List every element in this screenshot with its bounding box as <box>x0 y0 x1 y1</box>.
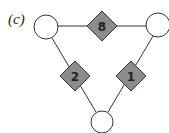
variable-node-top-left <box>34 15 58 39</box>
variable-node-bottom <box>91 111 113 133</box>
panel-label: (c) <box>8 11 25 28</box>
diagram-canvas: 8 2 1 <box>0 0 169 133</box>
factor-label-right: 1 <box>127 70 135 84</box>
factor-label-top: 8 <box>98 20 106 34</box>
factor-label-left: 2 <box>71 70 79 84</box>
factor-graph-figure: (c) 8 2 1 <box>0 0 169 133</box>
variable-node-top-right <box>146 13 169 37</box>
